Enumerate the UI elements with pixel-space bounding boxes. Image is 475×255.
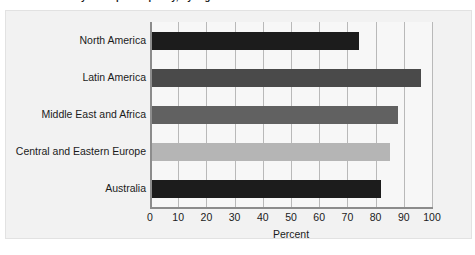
x-tick-label: 10 [172, 211, 184, 223]
y-axis-line [150, 22, 152, 207]
figure: Personal delivery of corporate policy, b… [0, 0, 475, 255]
x-axis-title: Percent [150, 228, 432, 240]
figure-caption: Personal delivery of corporate policy, b… [6, 0, 446, 3]
category-axis-labels: North AmericaLatin AmericaMiddle East an… [0, 22, 150, 207]
bar [150, 180, 381, 198]
bar [150, 106, 398, 124]
category-label: Middle East and Africa [4, 108, 150, 120]
category-label: Latin America [4, 71, 150, 83]
gridline [404, 22, 405, 207]
gridline [432, 22, 433, 207]
x-tick-label: 30 [229, 211, 241, 223]
x-tick-label: 70 [342, 211, 354, 223]
x-tick-label: 0 [147, 211, 153, 223]
x-tick-label: 100 [423, 211, 441, 223]
category-label: Central and Eastern Europe [4, 145, 150, 157]
x-axis-line [150, 207, 433, 209]
bar [150, 143, 390, 161]
x-tick-label: 50 [285, 211, 297, 223]
x-tick-label: 20 [201, 211, 213, 223]
x-tick-label: 80 [370, 211, 382, 223]
x-tick-label: 40 [257, 211, 269, 223]
category-label: Australia [4, 182, 150, 194]
bar [150, 32, 359, 50]
category-label: North America [4, 34, 150, 46]
x-tick-label: 60 [313, 211, 325, 223]
bar [150, 69, 421, 87]
x-tick-label: 90 [398, 211, 410, 223]
plot-area [150, 22, 432, 207]
